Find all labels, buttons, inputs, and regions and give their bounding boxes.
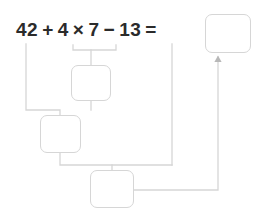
expr-token-equals: = (141, 18, 161, 42)
wire-sum-to-final (60, 153, 172, 165)
wire-42-to-sum (26, 44, 60, 115)
worksheet-canvas: 42+4×7−13= (0, 0, 271, 219)
brace-4-times-7 (73, 45, 116, 50)
expr-token-operator-times: × (69, 18, 89, 42)
arrowhead-into-answer (214, 56, 221, 63)
expr-token-operand-4: 4 (58, 18, 69, 42)
expr-token-operand-13: 13 (119, 18, 141, 42)
wire-final-to-answer (134, 57, 218, 190)
expr-token-operator-plus: + (38, 18, 58, 42)
answer-box-product[interactable] (71, 65, 111, 101)
expr-token-operand-42: 42 (16, 18, 38, 42)
answer-box-result[interactable] (205, 14, 251, 53)
answer-box-sum[interactable] (40, 115, 81, 153)
expression: 42+4×7−13= (16, 18, 161, 42)
answer-box-final[interactable] (90, 170, 134, 208)
expr-token-operand-7: 7 (88, 18, 99, 42)
expr-token-operator-minus: − (100, 18, 120, 42)
